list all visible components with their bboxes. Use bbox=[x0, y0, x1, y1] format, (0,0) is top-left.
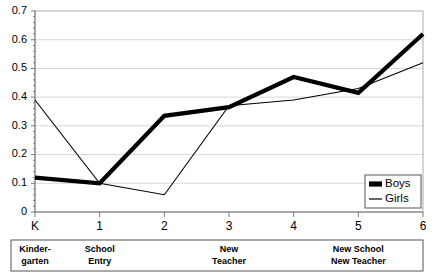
chart-legend[interactable]: BoysGirls bbox=[365, 175, 421, 208]
y-tick-label: 0.7 bbox=[12, 4, 27, 16]
band-label-line1: New School bbox=[333, 244, 384, 254]
y-tick-label: 0.6 bbox=[12, 33, 27, 45]
x-tick-label: 6 bbox=[420, 219, 427, 233]
x-tick-label: 5 bbox=[355, 219, 362, 233]
band-label-line1: New bbox=[220, 244, 240, 254]
band-label-line2: Entry bbox=[88, 256, 111, 266]
gridlines-group bbox=[35, 40, 423, 184]
legend-label-girls: Girls bbox=[385, 192, 409, 204]
y-axis: 00.10.20.30.40.50.60.7 bbox=[12, 4, 35, 217]
y-tick-label: 0.5 bbox=[12, 61, 27, 73]
legend-label-boys: Boys bbox=[385, 177, 411, 189]
band-label-line2: Teacher bbox=[212, 256, 246, 266]
legend-swatch-boys bbox=[369, 181, 382, 186]
line-chart: 00.10.20.30.40.50.60.7 K123456 BoysGirls… bbox=[0, 0, 434, 274]
y-tick-label: 0.1 bbox=[12, 176, 27, 188]
y-tick-label: 0.2 bbox=[12, 147, 27, 159]
x-tick-label: K bbox=[31, 219, 39, 233]
band-label-line2: garten bbox=[21, 256, 49, 266]
y-tick-label: 0.4 bbox=[12, 90, 27, 102]
x-axis: K123456 bbox=[31, 212, 427, 233]
x-tick-label: 2 bbox=[161, 219, 168, 233]
band-label-line1: School bbox=[85, 244, 115, 254]
band-label-line1: Kinder- bbox=[19, 244, 51, 254]
x-tick-label: 3 bbox=[226, 219, 233, 233]
series-line-boys bbox=[35, 34, 423, 183]
x-tick-label: 4 bbox=[290, 219, 297, 233]
stage-annotation-band: Kinder-gartenSchoolEntryNewTeacherNew Sc… bbox=[11, 240, 423, 271]
x-tick-label: 1 bbox=[96, 219, 103, 233]
chart-canvas: 00.10.20.30.40.50.60.7 K123456 BoysGirls… bbox=[0, 0, 434, 274]
series-group bbox=[35, 34, 423, 195]
band-label-line2: New Teacher bbox=[331, 256, 386, 266]
y-tick-label: 0 bbox=[21, 205, 27, 217]
y-tick-label: 0.3 bbox=[12, 119, 27, 131]
